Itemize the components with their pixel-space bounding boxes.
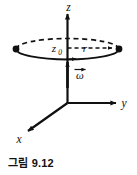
x-axis-label: x: [15, 133, 22, 145]
z-axis-label: z: [65, 1, 71, 13]
radius-label: r: [83, 42, 88, 54]
radius-indicator: r: [68, 42, 113, 54]
bead-right: [116, 46, 123, 53]
height-label-subscript: 0: [58, 48, 62, 57]
height-label-group: z 0: [51, 42, 62, 57]
angular-velocity: ω: [68, 62, 86, 88]
bead-left: [13, 46, 20, 53]
figure-container: z y x r z 0: [0, 0, 137, 175]
y-axis-label: y: [120, 97, 127, 110]
physics-diagram: z y x r z 0: [0, 0, 137, 150]
omega-label: ω: [76, 69, 84, 81]
x-axis: x: [15, 103, 67, 145]
figure-caption: 그림 9.12: [8, 154, 54, 170]
x-axis-line: [28, 103, 68, 131]
height-label: z: [51, 42, 57, 54]
y-axis: y: [68, 97, 128, 110]
